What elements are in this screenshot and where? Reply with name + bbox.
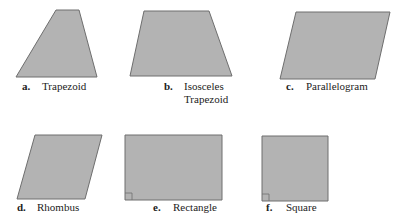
caption-label: Parallelogram <box>306 80 368 93</box>
rhombus-shape <box>17 135 102 199</box>
isosceles-trapezoid-shape <box>130 11 232 76</box>
quadrilaterals-figure <box>0 0 394 224</box>
caption-label-line2: Trapezoid <box>164 93 228 106</box>
caption-isosceles-trapezoid: b.Isosceles Trapezoid <box>164 80 228 106</box>
caption-letter: e. <box>153 201 173 214</box>
caption-label: Trapezoid <box>42 80 86 93</box>
caption-parallelogram: c.Parallelogram <box>286 80 368 93</box>
caption-letter: d. <box>17 201 37 214</box>
rectangle-shape <box>125 135 222 200</box>
caption-label: Rhombus <box>37 201 79 214</box>
caption-letter: b. <box>164 80 184 93</box>
caption-rectangle: e.Rectangle <box>153 201 217 214</box>
caption-letter: a. <box>22 80 42 93</box>
caption-letter: c. <box>286 80 306 93</box>
trapezoid-shape <box>16 10 97 77</box>
square-shape <box>262 136 328 201</box>
parallelogram-shape <box>280 12 390 79</box>
caption-trapezoid: a.Trapezoid <box>22 80 86 93</box>
caption-label: Isosceles <box>184 80 224 93</box>
caption-label: Square <box>286 201 317 214</box>
caption-rhombus: d.Rhombus <box>17 201 79 214</box>
caption-letter: f. <box>266 201 286 214</box>
caption-square: f.Square <box>266 201 317 214</box>
caption-label: Rectangle <box>173 201 217 214</box>
